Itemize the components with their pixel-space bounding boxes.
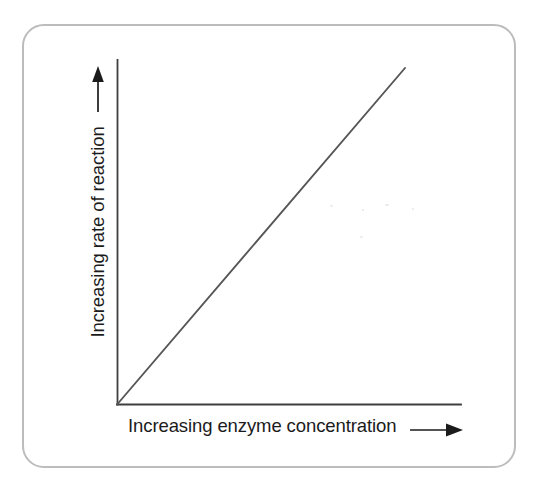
y-axis-label: Increasing rate of reaction — [89, 126, 108, 337]
arrow-up-icon — [92, 66, 104, 112]
arrow-right-icon — [410, 424, 463, 437]
data-line-rate-vs-concentration — [118, 68, 406, 404]
x-axis-label: Increasing enzyme concentration — [128, 417, 396, 436]
figure-root: Increasing enzyme concentration Increasi… — [0, 0, 546, 490]
